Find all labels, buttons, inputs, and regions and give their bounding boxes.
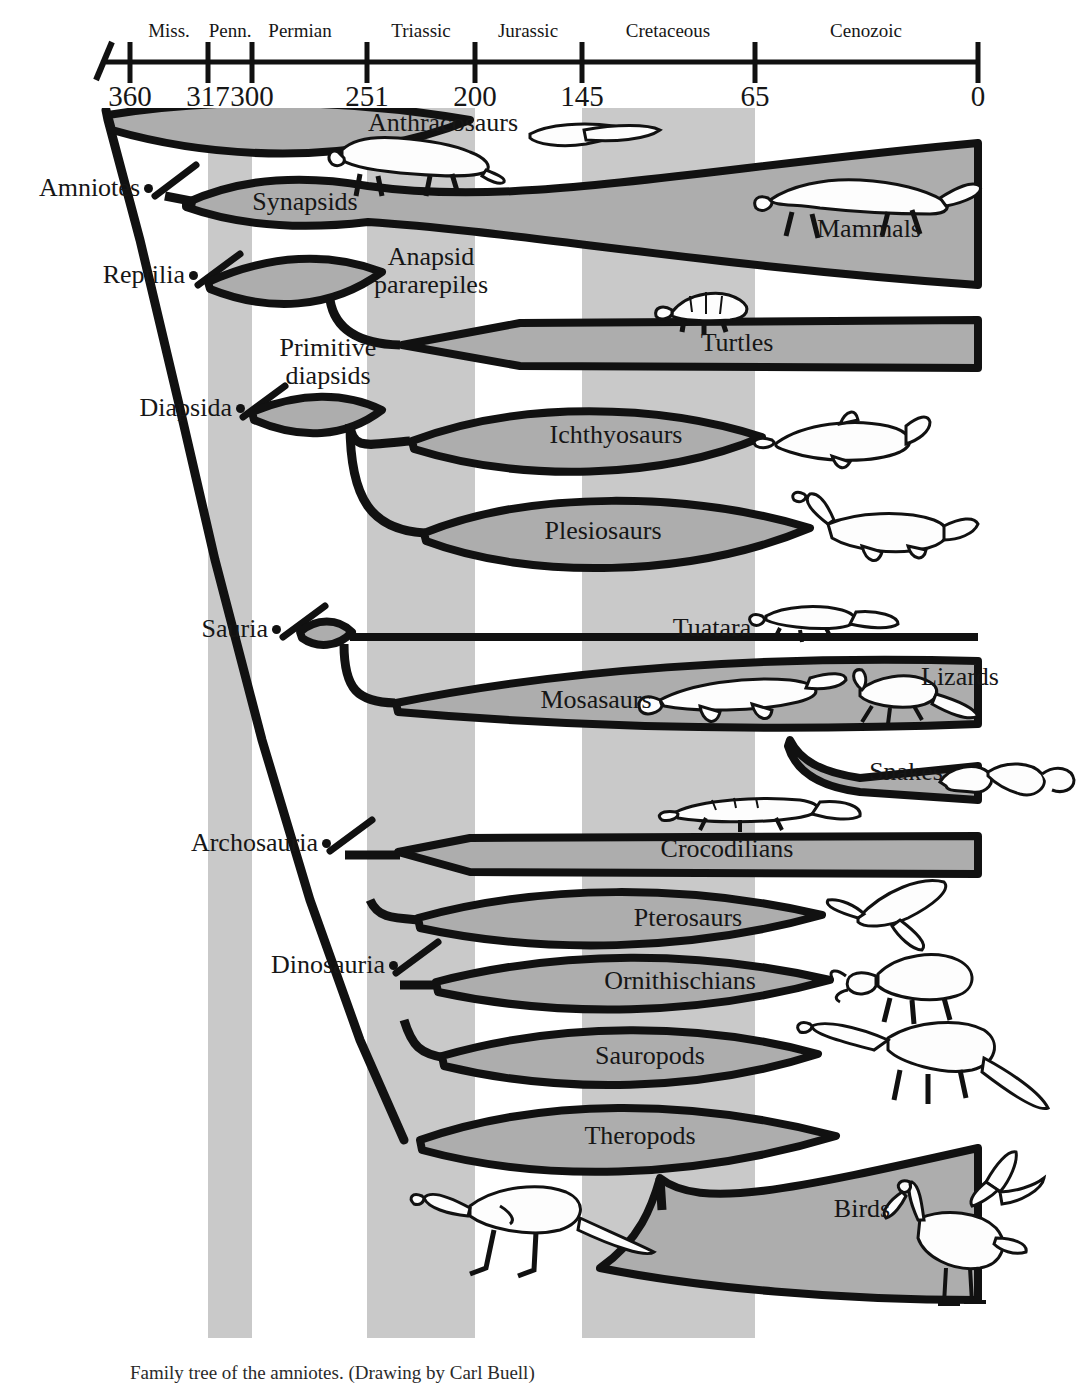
pterosaur-icon bbox=[827, 881, 945, 950]
taxon-label-turtles: Turtles bbox=[701, 328, 774, 358]
tick-label-0: 0 bbox=[971, 80, 986, 113]
clade-primitive-diapsids bbox=[252, 397, 382, 434]
plesiosaur-icon bbox=[793, 492, 978, 560]
taxon-label-anthracosaurs: Anthracosaurs bbox=[368, 108, 518, 138]
figure-root: Miss.Penn.PermianTriassicJurassicCretace… bbox=[0, 0, 1085, 1387]
clade-label-amniotes: Amniotes bbox=[39, 173, 140, 203]
taxon-label-ornithischians: Ornithischians bbox=[604, 966, 756, 996]
tick-label-300: 300 bbox=[230, 80, 274, 113]
time-axis bbox=[96, 42, 978, 83]
clade-leader-dot bbox=[322, 839, 331, 848]
period-label-penn: Penn. bbox=[209, 20, 252, 42]
period-label-permian: Permian bbox=[268, 20, 331, 42]
tick-label-317: 317 bbox=[186, 80, 230, 113]
taxon-label-mosasaurs: Mosasaurs bbox=[540, 685, 651, 715]
clade-leader-dot bbox=[189, 271, 198, 280]
period-label-cretaceous: Cretaceous bbox=[626, 20, 710, 42]
tick-label-360: 360 bbox=[108, 80, 152, 113]
period-label-miss: Miss. bbox=[148, 20, 190, 42]
clade-turtles bbox=[402, 320, 978, 368]
period-label-triassic: Triassic bbox=[391, 20, 450, 42]
taxon-label-synapsids: Synapsids bbox=[252, 187, 357, 217]
taxon-label-anapsid-pararepiles: Anapsid pararepiles bbox=[374, 243, 488, 298]
node-amniotes bbox=[155, 165, 196, 196]
taxon-label-crocodilians: Crocodilians bbox=[661, 834, 794, 864]
period-label-cenozoic: Cenozoic bbox=[830, 20, 902, 42]
clade-leader-dot bbox=[389, 961, 398, 970]
triceratops-icon bbox=[831, 955, 972, 1024]
branch-synapsids bbox=[165, 196, 196, 202]
clade-pterosaurs bbox=[418, 892, 822, 945]
taxon-label-primitive-diapsids: Primitive diapsids bbox=[280, 334, 377, 389]
node-archosauria bbox=[330, 820, 372, 851]
branch-birds bbox=[660, 1178, 662, 1210]
taxon-label-lizards: Lizards bbox=[921, 662, 999, 692]
taxon-label-birds: Birds bbox=[834, 1194, 890, 1224]
clade-label-reptilia: Reptilia bbox=[103, 260, 185, 290]
tick-label-65: 65 bbox=[741, 80, 770, 113]
figure-caption: Family tree of the amniotes. (Drawing by… bbox=[130, 1362, 535, 1384]
taxon-label-ichthyosaurs: Ichthyosaurs bbox=[550, 420, 683, 450]
clade-leader-dot bbox=[144, 184, 153, 193]
taxon-label-plesiosaurs: Plesiosaurs bbox=[545, 516, 662, 546]
sauropod-icon bbox=[798, 1022, 1048, 1108]
tick-label-145: 145 bbox=[560, 80, 604, 113]
taxon-label-snakes: Snakes bbox=[869, 757, 943, 787]
clade-label-diapsida: Diapsida bbox=[140, 393, 232, 423]
taxon-label-tuatara: Tuatara bbox=[673, 613, 751, 643]
clade-label-archosauria: Archosauria bbox=[191, 828, 318, 858]
snake-icon bbox=[940, 764, 1074, 795]
taxon-label-sauropods: Sauropods bbox=[595, 1041, 705, 1071]
clade-label-sauria: Sauria bbox=[202, 614, 268, 644]
clade-label-dinosauria: Dinosauria bbox=[271, 950, 385, 980]
taxon-label-pterosaurs: Pterosaurs bbox=[634, 903, 742, 933]
taxon-label-theropods: Theropods bbox=[584, 1121, 695, 1151]
clade-leader-dot bbox=[272, 625, 281, 634]
period-label-jurassic: Jurassic bbox=[498, 20, 558, 42]
taxon-label-mammals: Mammals bbox=[817, 214, 921, 244]
node-sauria-lens bbox=[300, 622, 352, 645]
ichthyosaur-icon bbox=[754, 412, 930, 468]
clade-leader-dot bbox=[236, 404, 245, 413]
